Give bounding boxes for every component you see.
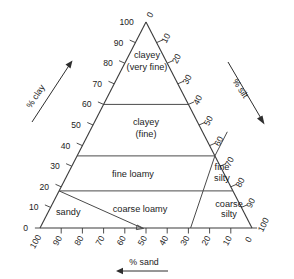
region-label-clayey-fine-line1: clayey bbox=[133, 117, 159, 127]
left-label-30: 30 bbox=[50, 161, 60, 171]
region-label-sandy: sandy bbox=[56, 207, 81, 217]
divider-silty-lower bbox=[191, 156, 215, 228]
ternary-diagram: 0 10 20 30 40 50 60 70 80 90 100 0 10 20… bbox=[0, 0, 294, 279]
bottom-axis-title: % sand bbox=[129, 257, 158, 267]
left-label-20: 20 bbox=[40, 182, 50, 192]
bottom-tick-labels: 100 90 80 70 60 50 40 30 20 10 0 bbox=[27, 233, 254, 251]
bottom-label-60: 60 bbox=[114, 234, 128, 247]
right-label-40: 40 bbox=[191, 93, 204, 106]
right-label-30: 30 bbox=[180, 73, 193, 86]
region-labels: clayey (very fine) clayey (fine) fine lo… bbox=[56, 50, 243, 219]
right-axis-title: % silt bbox=[231, 77, 251, 101]
left-label-60: 60 bbox=[82, 99, 92, 109]
bottom-label-20: 20 bbox=[199, 234, 213, 247]
region-label-coarse-silty-line1: coarse bbox=[215, 199, 243, 209]
region-label-coarse-loamy: coarse loamy bbox=[113, 204, 168, 214]
right-label-10: 10 bbox=[159, 31, 172, 44]
bottom-label-90: 90 bbox=[51, 234, 65, 247]
left-label-0: 0 bbox=[23, 223, 28, 233]
bottom-label-80: 80 bbox=[72, 234, 86, 247]
right-label-80: 80 bbox=[233, 176, 246, 189]
left-label-70: 70 bbox=[93, 79, 103, 89]
left-label-10: 10 bbox=[29, 202, 39, 212]
left-label-90: 90 bbox=[114, 38, 124, 48]
bottom-axis-ticks bbox=[61, 228, 231, 234]
bottom-label-100: 100 bbox=[27, 233, 43, 251]
right-label-50: 50 bbox=[202, 114, 215, 127]
silt-arrowhead bbox=[257, 116, 265, 125]
right-label-100: 100 bbox=[256, 216, 272, 234]
left-label-50: 50 bbox=[71, 120, 81, 130]
bottom-label-10: 10 bbox=[220, 234, 234, 247]
right-label-0: 0 bbox=[144, 10, 155, 19]
clay-arrowhead bbox=[66, 61, 73, 69]
bottom-axis-title-group: % sand bbox=[116, 257, 168, 274]
region-label-clayey-fine-line2: (fine) bbox=[136, 129, 157, 139]
region-label-clayey-very-fine-line1: clayey bbox=[134, 50, 160, 60]
left-tick-70 bbox=[109, 81, 115, 84]
left-tick-90 bbox=[130, 40, 136, 43]
bottom-label-30: 30 bbox=[178, 234, 192, 247]
right-label-90: 90 bbox=[244, 196, 257, 209]
bottom-label-0: 0 bbox=[243, 235, 254, 244]
soil-texture-triangle-figure: 0 10 20 30 40 50 60 70 80 90 100 0 10 20… bbox=[0, 0, 294, 279]
right-label-60: 60 bbox=[212, 134, 225, 147]
right-label-20: 20 bbox=[170, 52, 183, 65]
left-label-80: 80 bbox=[103, 58, 113, 68]
left-axis-ticks bbox=[35, 40, 135, 228]
right-tick-labels: 0 10 20 30 40 50 60 70 80 90 100 bbox=[144, 10, 271, 233]
region-label-fine-loamy: fine loamy bbox=[112, 169, 154, 179]
left-tick-40 bbox=[77, 143, 83, 146]
bottom-label-70: 70 bbox=[93, 234, 107, 247]
sand-arrowhead bbox=[116, 268, 123, 274]
left-label-40: 40 bbox=[61, 141, 71, 151]
left-tick-30 bbox=[66, 164, 72, 167]
left-axis-title: % clay bbox=[24, 82, 47, 110]
region-label-fine-silty-line1: fine bbox=[215, 162, 230, 172]
left-tick-labels: 0 10 20 30 40 50 60 70 80 90 100 bbox=[23, 17, 134, 233]
left-tick-60 bbox=[98, 102, 104, 105]
left-label-100: 100 bbox=[120, 17, 135, 27]
right-axis-title-group: % silt bbox=[228, 62, 265, 125]
region-label-coarse-silty-line2: silty bbox=[221, 209, 237, 219]
bottom-label-50: 50 bbox=[136, 234, 150, 247]
left-axis-title-group: % clay bbox=[24, 61, 72, 123]
region-label-clayey-very-fine-line2: (very fine) bbox=[127, 62, 168, 72]
bottom-label-40: 40 bbox=[157, 234, 171, 247]
left-tick-50 bbox=[87, 123, 93, 126]
left-tick-20 bbox=[56, 184, 62, 187]
left-tick-10 bbox=[45, 205, 51, 208]
left-tick-80 bbox=[119, 61, 125, 64]
region-label-fine-silty-line2: silty bbox=[214, 173, 230, 183]
